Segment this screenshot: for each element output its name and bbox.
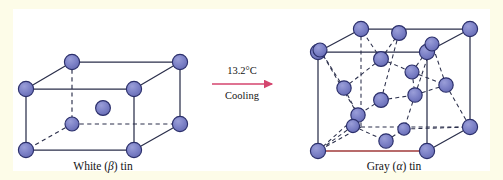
atom	[126, 81, 141, 96]
atom-interior	[405, 65, 419, 79]
atom	[18, 142, 33, 157]
atom	[462, 119, 477, 134]
atom-interior	[374, 93, 389, 108]
atom	[65, 117, 79, 131]
figure-root: White (β) tin 13.2°C Cooling	[0, 0, 503, 180]
transition-process-label: Cooling	[225, 90, 260, 101]
left-cell-atoms	[18, 54, 187, 157]
transition-temperature-label: 13.2°C	[227, 65, 257, 76]
transition-arrow-group: 13.2°C Cooling	[212, 65, 272, 101]
atom-interior	[398, 123, 410, 135]
white-beta-tin-cell: White (β) tin	[18, 54, 187, 173]
atom	[425, 37, 439, 51]
tin-allotropes-diagram: White (β) tin 13.2°C Cooling	[0, 0, 503, 180]
atom-interior	[346, 119, 359, 132]
atom-interior	[379, 134, 393, 148]
atom	[310, 143, 325, 158]
atom	[439, 78, 453, 92]
atom	[353, 21, 368, 36]
gray-alpha-tin-label: Gray (α) tin	[367, 160, 422, 173]
atom	[172, 116, 187, 131]
gray-alpha-tin-cell: Gray (α) tin	[310, 21, 477, 173]
atom-interior	[408, 88, 422, 102]
atom-body-center	[96, 101, 111, 116]
atom	[462, 21, 477, 36]
atom	[392, 26, 407, 41]
atom	[313, 43, 327, 57]
atom-interior	[374, 52, 389, 67]
atom	[172, 54, 187, 69]
atom	[419, 143, 434, 158]
atom-interior	[337, 81, 351, 95]
atom	[126, 142, 141, 157]
atom	[18, 81, 33, 96]
white-beta-tin-label: White (β) tin	[73, 160, 133, 173]
atom	[64, 54, 79, 69]
